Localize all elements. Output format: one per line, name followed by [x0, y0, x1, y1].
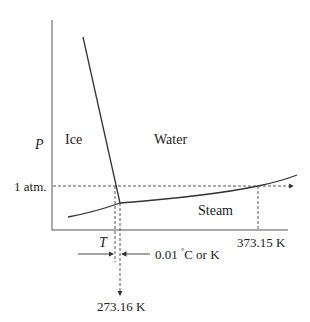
boiling-point-label: 373.15 K	[237, 236, 285, 249]
x-axis-label: T	[99, 236, 107, 250]
region-water-label: Water	[154, 133, 187, 147]
one-atm-label: 1 atm.	[14, 180, 47, 193]
gap-unit: C or K	[184, 247, 219, 262]
y-axis-label: P	[35, 138, 44, 152]
gap-value: 0.01	[155, 247, 178, 262]
vaporization-curve	[120, 175, 297, 203]
region-ice-label: Ice	[65, 133, 82, 147]
phase-diagram-canvas	[0, 0, 310, 322]
fusion-curve	[83, 37, 120, 203]
triple-point-temp-label: 273.16 K	[97, 300, 145, 313]
sublimation-curve	[68, 203, 120, 217]
gap-label: 0.01 °C or K	[155, 248, 220, 261]
region-steam-label: Steam	[198, 204, 233, 218]
